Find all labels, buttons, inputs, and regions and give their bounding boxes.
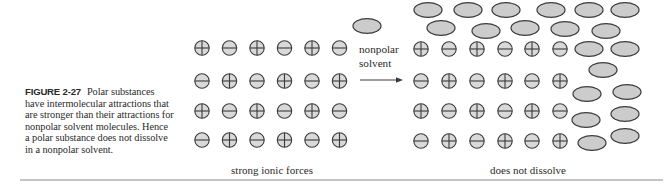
positive-ion-icon xyxy=(442,74,456,88)
negative-ion-icon xyxy=(332,41,346,55)
arrow-icon xyxy=(360,77,403,82)
solvent-molecule-icon xyxy=(414,3,442,18)
ionic-lattice-right xyxy=(414,42,567,148)
solvent-molecule-icon xyxy=(573,87,601,102)
negative-ion-icon xyxy=(553,104,567,118)
negative-ion-icon xyxy=(250,74,264,88)
negative-ion-icon xyxy=(525,134,539,148)
positive-ion-icon xyxy=(305,41,319,55)
positive-ion-icon xyxy=(470,104,484,118)
positive-ion-icon xyxy=(250,104,264,118)
positive-ion-icon xyxy=(277,133,291,147)
positive-ion-icon xyxy=(498,134,512,148)
positive-ion-icon xyxy=(277,74,291,88)
positive-ion-icon xyxy=(553,134,567,148)
solvent-molecule-icon xyxy=(592,24,620,39)
negative-ion-icon xyxy=(277,104,291,118)
solvent-molecule-icon xyxy=(578,136,606,151)
right-panel-caption: does not dissolve xyxy=(490,164,566,177)
solvent-molecule-icon xyxy=(611,42,639,57)
negative-ion-icon xyxy=(442,104,456,118)
dissolution-diagram xyxy=(0,0,669,188)
positive-ion-icon xyxy=(195,104,209,118)
negative-ion-icon xyxy=(305,133,319,147)
solvent-molecule-icon xyxy=(454,3,482,18)
positive-ion-icon xyxy=(250,41,264,55)
solvent-molecule-icon xyxy=(427,21,455,36)
solvent-molecule-icon xyxy=(575,3,603,18)
positive-ion-icon xyxy=(222,133,236,147)
solvent-molecule-icon xyxy=(511,21,539,36)
solvent-molecule-icon xyxy=(551,22,579,37)
arrow-label-line2: solvent xyxy=(359,57,399,71)
negative-ion-icon xyxy=(222,104,236,118)
positive-ion-icon xyxy=(470,42,484,56)
negative-ion-icon xyxy=(277,41,291,55)
solvent-molecule-icon xyxy=(575,42,603,57)
negative-ion-icon xyxy=(222,41,236,55)
positive-ion-icon xyxy=(195,41,209,55)
positive-ion-icon xyxy=(414,104,428,118)
solvent-molecule-icon xyxy=(353,19,381,34)
solvent-molecule-icon xyxy=(572,113,600,128)
positive-ion-icon xyxy=(498,74,512,88)
positive-ion-icon xyxy=(332,74,346,88)
arrow-label-line1: nonpolar xyxy=(359,43,399,57)
solvent-molecule-icon xyxy=(611,129,639,144)
solvent-molecule-icon xyxy=(537,3,565,18)
solvent-molecule-icon xyxy=(611,3,639,18)
negative-ion-icon xyxy=(553,42,567,56)
positive-ion-icon xyxy=(414,42,428,56)
solvent-molecules xyxy=(353,3,641,151)
negative-ion-icon xyxy=(414,134,428,148)
positive-ion-icon xyxy=(332,133,346,147)
negative-ion-icon xyxy=(525,74,539,88)
negative-ion-icon xyxy=(305,74,319,88)
positive-ion-icon xyxy=(525,104,539,118)
negative-ion-icon xyxy=(195,133,209,147)
negative-ion-icon xyxy=(414,74,428,88)
positive-ion-icon xyxy=(442,134,456,148)
solvent-molecule-icon xyxy=(589,63,617,78)
positive-ion-icon xyxy=(222,74,236,88)
negative-ion-icon xyxy=(470,134,484,148)
arrow-label: nonpolar solvent xyxy=(359,43,399,70)
ionic-lattice-left xyxy=(195,41,347,147)
solvent-molecule-icon xyxy=(611,107,639,122)
solvent-molecule-icon xyxy=(472,24,500,39)
negative-ion-icon xyxy=(442,42,456,56)
negative-ion-icon xyxy=(498,104,512,118)
positive-ion-icon xyxy=(305,104,319,118)
solvent-molecule-icon xyxy=(613,85,641,100)
negative-ion-icon xyxy=(250,133,264,147)
bottom-divider xyxy=(20,179,663,181)
negative-ion-icon xyxy=(498,42,512,56)
left-panel-caption: strong ionic forces xyxy=(231,164,313,177)
negative-ion-icon xyxy=(470,74,484,88)
positive-ion-icon xyxy=(525,42,539,56)
negative-ion-icon xyxy=(332,104,346,118)
negative-ion-icon xyxy=(195,74,209,88)
solvent-molecule-icon xyxy=(492,3,520,18)
positive-ion-icon xyxy=(553,74,567,88)
